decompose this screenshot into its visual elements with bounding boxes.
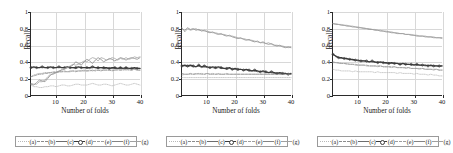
legend-line-sample (395, 138, 406, 145)
y-tick-label: 1 (10, 9, 28, 16)
x-tick-label: 40 (439, 99, 446, 106)
legend-entry[interactable]: (c) (358, 138, 377, 145)
legend-label: (a) (180, 139, 188, 145)
legend-line-sample (432, 138, 443, 145)
legend-label: (f) (425, 139, 432, 145)
series-line-a (333, 69, 442, 76)
x-tick-label: 20 (382, 99, 389, 106)
series-layer (31, 12, 140, 95)
legend-entry[interactable]: (d) (74, 138, 93, 145)
y-axis-tick (179, 96, 182, 97)
legend-label: (d) (236, 139, 244, 145)
legend-entry[interactable]: (f) (112, 138, 130, 145)
legend-entry[interactable]: (f) (263, 138, 281, 145)
series-line-e (333, 63, 442, 70)
legend-marker-icon (229, 140, 234, 145)
legend-label: (g) (443, 139, 451, 145)
gridline-vertical (292, 12, 293, 95)
y-tick-label: 0.8 (312, 26, 330, 33)
legend-line-sample (207, 138, 218, 145)
series-line-a (31, 83, 140, 87)
axes-box (30, 12, 140, 96)
legend-marker-icon (78, 140, 83, 145)
legend-entry[interactable]: (e) (395, 138, 414, 145)
legend-entry[interactable]: (a) (18, 138, 37, 145)
legend-entry[interactable]: (a) (320, 138, 339, 145)
legend-entry[interactable]: (c) (207, 138, 226, 145)
legend-entry[interactable]: (g) (432, 138, 451, 145)
x-tick-label: 30 (108, 99, 115, 106)
legend-entry[interactable]: (b) (37, 138, 56, 145)
gridline-vertical (141, 12, 142, 95)
legend-line-sample (414, 138, 425, 145)
x-tick-label: 30 (410, 99, 417, 106)
y-tick-label: 0 (10, 93, 28, 100)
legend-line-sample (225, 138, 236, 145)
legend-label: (f) (274, 139, 281, 145)
legend-line-sample (358, 138, 369, 145)
y-tick-label: 0.4 (10, 59, 28, 66)
y-axis-tick (28, 96, 31, 97)
series-line-g (333, 24, 442, 39)
legend-label: (a) (331, 139, 339, 145)
legend-entry[interactable]: (g) (130, 138, 149, 145)
legend-line-sample (18, 138, 29, 145)
series-line-f (182, 28, 291, 48)
legend-label: (e) (104, 139, 112, 145)
chart-panel-2: Recall00.20.40.60.8110203040Number of fo… (151, 0, 302, 153)
legend-entry[interactable]: (c) (56, 138, 75, 145)
series-line-e (31, 69, 140, 76)
y-tick-label: 0 (312, 93, 330, 100)
legend-entry[interactable]: (b) (339, 138, 358, 145)
y-tick-label: 0 (161, 93, 179, 100)
legend-label: (b) (350, 139, 358, 145)
legend-entry[interactable]: (a) (169, 138, 188, 145)
chart-panel-3: Recall00.20.40.60.8110203040Number of fo… (302, 0, 453, 153)
plot-area: Recall00.20.40.60.8110203040Number of fo… (302, 0, 453, 130)
legend-label: (c) (67, 139, 75, 145)
legend-line-sample (74, 138, 85, 145)
legend-line-sample (130, 138, 141, 145)
series-layer (182, 12, 291, 95)
legend-entry[interactable]: (b) (188, 138, 207, 145)
y-tick-label: 0.2 (10, 76, 28, 83)
y-tick-label: 0.6 (10, 42, 28, 49)
legend-line-sample (263, 138, 274, 145)
x-tick-label: 30 (259, 99, 266, 106)
gridline-vertical (443, 12, 444, 95)
y-tick-label: 0.4 (161, 59, 179, 66)
legend-label: (b) (199, 139, 207, 145)
x-tick-label: 10 (203, 99, 210, 106)
legend-line-sample (37, 138, 48, 145)
y-tick-label: 0.6 (312, 42, 330, 49)
legend-entry[interactable]: (g) (281, 138, 300, 145)
legend-label: (g) (292, 139, 300, 145)
x-tick-label: 20 (80, 99, 87, 106)
legend-line-sample (169, 138, 180, 145)
y-tick-label: 0.6 (161, 42, 179, 49)
axes-box (332, 12, 442, 96)
y-tick-label: 1 (312, 9, 330, 16)
legend-label: (e) (406, 139, 414, 145)
y-tick-labels: 00.20.40.60.81 (6, 0, 28, 130)
y-tick-label: 0.4 (312, 59, 330, 66)
legend-label: (c) (218, 139, 226, 145)
legend-entry[interactable]: (d) (225, 138, 244, 145)
legend-entry[interactable]: (d) (376, 138, 395, 145)
legend-entry[interactable]: (f) (414, 138, 432, 145)
legend-label: (g) (141, 139, 149, 145)
y-tick-labels: 00.20.40.60.81 (157, 0, 179, 130)
y-tick-label: 0.2 (161, 76, 179, 83)
legend-entry[interactable]: (e) (93, 138, 112, 145)
chart-panel-1: Recall00.20.40.60.8110203040Number of fo… (0, 0, 151, 153)
x-axis-label: Number of folds (181, 108, 291, 115)
legend-label: (c) (369, 139, 377, 145)
x-tick-label: 40 (288, 99, 295, 106)
plot-area: Recall00.20.40.60.8110203040Number of fo… (0, 0, 151, 130)
legend-line-sample (244, 138, 255, 145)
legend-entry[interactable]: (e) (244, 138, 263, 145)
legend-line-sample (320, 138, 331, 145)
legend-box: (a)(b)(c)(d)(e)(f)(g) (317, 136, 439, 147)
legend-line-sample (376, 138, 387, 145)
legend-label: (d) (85, 139, 93, 145)
